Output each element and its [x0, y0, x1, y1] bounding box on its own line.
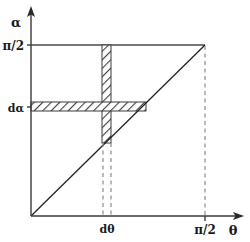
- d-alpha-hatched-band: [31, 102, 146, 111]
- x-differential-label-d-theta: dθ: [99, 223, 114, 236]
- d-theta-hatched-strip: [102, 45, 111, 143]
- y-axis-label: α: [11, 15, 21, 30]
- x-tick-label-pi-over-two: π/2: [194, 223, 216, 237]
- x-axis: [31, 212, 244, 220]
- d-theta-strip-fill: [102, 45, 111, 143]
- y-tick-label-pi-over-two: π/2: [2, 39, 24, 53]
- figure-container: α π/2 dα dθ π/2 θ: [0, 0, 250, 242]
- x-axis-label: θ: [229, 223, 238, 238]
- diagonal-alpha-equals-theta: [31, 45, 205, 216]
- d-alpha-band-fill: [31, 102, 146, 111]
- phase-space-diagram: α π/2 dα dθ π/2 θ: [0, 0, 250, 242]
- y-differential-label-d-alpha: dα: [8, 102, 25, 115]
